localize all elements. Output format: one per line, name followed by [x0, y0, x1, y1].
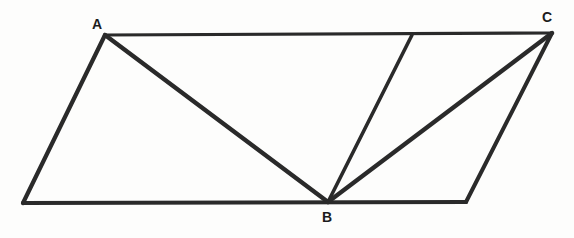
diagonal-b-to-c: [328, 33, 552, 202]
segment-group: [23, 33, 552, 203]
left-edge-a-to-bottom-left: [23, 35, 105, 203]
right-edge-bottom-right-to-c: [466, 33, 552, 202]
vertex-label-c: C: [542, 10, 552, 24]
bottom-edge-bottom-left-to-bottom-right: [23, 202, 466, 203]
figure-canvas: [0, 0, 574, 238]
cevian-b-to-top-junction: [328, 35, 412, 202]
vertex-label-a: A: [92, 17, 102, 31]
geometry-figure: ABC: [0, 0, 574, 238]
diagonal-a-to-b: [105, 35, 328, 202]
top-edge-a-to-c: [105, 33, 552, 35]
vertex-label-b: B: [322, 210, 332, 224]
